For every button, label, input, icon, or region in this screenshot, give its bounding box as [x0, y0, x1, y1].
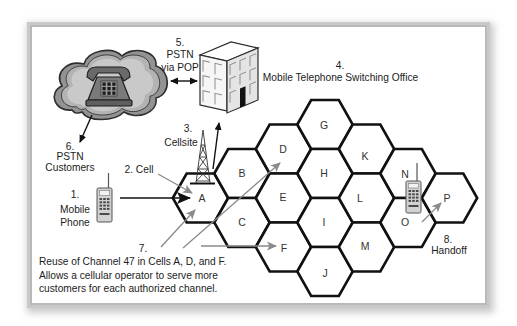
switching-office-building-icon [200, 42, 258, 113]
cell-label-E: E [279, 191, 286, 203]
cellsite-to-mtso-arrow [213, 123, 219, 169]
building-door [240, 86, 246, 107]
cell-label-O: O [401, 216, 409, 228]
cell-label-H: H [320, 167, 328, 179]
mobile-phone-icon [97, 173, 112, 222]
cellsite-number: 3. [184, 123, 193, 134]
pstn-customers-number: 6. [66, 141, 75, 152]
cell-label-P: P [443, 192, 450, 204]
mobile-phone-line2: Phone [60, 217, 90, 228]
reuse-text-line3: customers for each authorized channel. [39, 283, 217, 294]
pstn-pop-line2: via POP [161, 62, 199, 73]
cell-label-C: C [238, 216, 246, 228]
cell-label-A: A [198, 192, 205, 204]
cell-label-J: J [322, 267, 327, 279]
cell-label-B: B [238, 167, 245, 179]
cell-label-I: I [323, 216, 326, 228]
reuse-text-line1: Reuse of Channel 47 in Cells A, D, and F… [39, 256, 226, 267]
reuse-text-line2: Allows a cellular operator to serve more [39, 270, 218, 281]
cell-label-F: F [281, 242, 287, 254]
cell-label-M: M [361, 240, 370, 252]
pstn-pop-line1: PSTN [166, 49, 193, 60]
cell-label-L: L [357, 192, 363, 204]
reuse-number: 7. [139, 243, 148, 254]
cell-label: 2. Cell [125, 164, 154, 175]
handoff-number: 8. [444, 234, 453, 245]
cell-label-N: N [401, 168, 409, 180]
pstn-customers-arrow [80, 115, 92, 142]
cellsite-label: Cellsite [164, 137, 198, 148]
mtso-number: 4. [336, 60, 345, 71]
pstn-customers-line2: Customers [45, 162, 94, 173]
handoff-label: Handoff [431, 245, 467, 256]
desk-telephone-icon [86, 67, 132, 106]
mobile-phone-line1: Mobile [60, 204, 90, 215]
mtso-label: Mobile Telephone Switching Office [263, 72, 419, 83]
cell-label-K: K [361, 150, 368, 162]
cellular-network-diagram: A B C D E F G H I J K L M N O P [0, 0, 517, 326]
cell-label-G: G [320, 119, 328, 131]
pstn-customers-line1: PSTN [56, 151, 83, 162]
pstn-pop-number: 5. [176, 37, 185, 48]
mobile-phone-number: 1. [71, 189, 80, 200]
cell-label-D: D [279, 143, 287, 155]
